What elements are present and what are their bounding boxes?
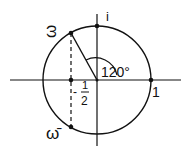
label-omega-bar: ω̄ (46, 124, 62, 143)
point-origin (96, 79, 99, 82)
point-omega-bar (69, 125, 74, 130)
label-one: 1 (152, 84, 160, 100)
label-minus-sign: - (73, 85, 77, 99)
label-i: i (106, 9, 109, 24)
label-omega: ω (41, 25, 60, 38)
point-minus-half (69, 78, 74, 83)
label-half-numerator: 1 (82, 79, 88, 91)
label-angle: 120° (101, 64, 130, 80)
point-one (149, 78, 154, 83)
radius-to-omega (71, 33, 97, 80)
point-omega (69, 31, 74, 36)
label-half-denominator: 2 (81, 94, 88, 108)
point-i (95, 24, 100, 29)
unit-circle-diagram: i 1 ω ω̄ 120° - 1 2 (0, 0, 190, 151)
